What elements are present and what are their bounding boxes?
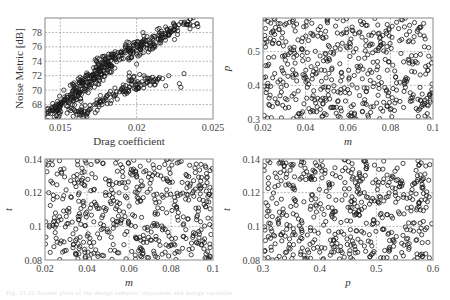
x-axis-label: p <box>344 276 351 288</box>
t-vs-p-svg: 0.30.40.50.60.080.10.120.14pt <box>0 0 450 300</box>
y-tick-label: 0.08 <box>243 255 261 266</box>
y-tick-label: 0.12 <box>243 187 261 198</box>
x-tick-label: 0.5 <box>370 263 383 274</box>
data-points <box>262 157 434 262</box>
x-tick-label: 0.4 <box>313 263 326 274</box>
y-tick-label: 0.1 <box>248 221 261 232</box>
x-tick-label: 0.6 <box>427 263 440 274</box>
figure-caption: Fig. 11.22 Scatter plots of the design s… <box>6 290 446 296</box>
y-tick-label: 0.14 <box>243 154 261 165</box>
y-axis-label: t <box>220 207 232 211</box>
